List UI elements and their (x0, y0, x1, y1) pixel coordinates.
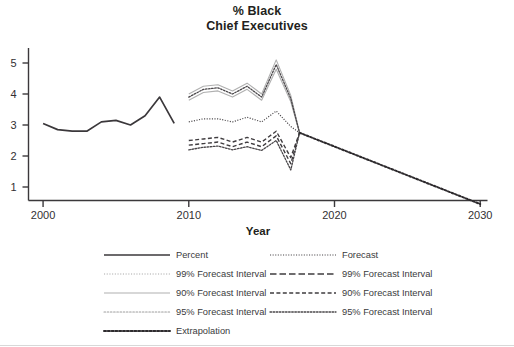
y-tick-label: 2 (10, 150, 16, 162)
series-line (189, 111, 300, 133)
series-line (189, 65, 300, 133)
series-line (43, 97, 174, 131)
tick-label-layer: 123452000201020202030Year (10, 57, 492, 237)
y-tick-label: 4 (10, 88, 16, 100)
chart-title-line-1: % Black (233, 4, 282, 18)
legend-label: Forecast (342, 250, 379, 260)
legend-label: 90% Forecast Interval (342, 288, 432, 298)
y-tick-label: 1 (10, 181, 16, 193)
legend-label: Percent (176, 250, 208, 260)
chart-title-line-2: Chief Executives (0, 19, 514, 34)
legend-label: Extrapolation (176, 326, 230, 336)
x-tick-label: 2010 (177, 209, 201, 221)
chart-figure: % Black Chief Executives 123452000201020… (0, 0, 514, 347)
x-axis-title: Year (246, 225, 271, 237)
legend-label: 90% Forecast Interval (176, 288, 266, 298)
series-line (189, 60, 300, 133)
chart-title: % Black Chief Executives (0, 4, 514, 34)
footer-rule (0, 345, 514, 346)
x-tick-label: 2020 (322, 209, 346, 221)
x-tick-label: 2030 (468, 209, 492, 221)
series-line (189, 133, 300, 164)
x-tick-label: 2000 (31, 209, 55, 221)
y-tick-label: 5 (10, 57, 16, 69)
y-tick-label: 3 (10, 119, 16, 131)
legend-label: 95% Forecast Interval (342, 307, 432, 317)
chart-legend: Percent99% Forecast Interval90% Forecast… (104, 250, 432, 336)
series-line (189, 69, 300, 133)
legend-label: 95% Forecast Interval (176, 307, 266, 317)
legend-label: 99% Forecast Interval (176, 269, 266, 279)
data-series-layer (43, 60, 480, 204)
legend-label: 99% Forecast Interval (342, 269, 432, 279)
line-chart-plot: 123452000201020202030Year Percent99% For… (0, 0, 514, 347)
series-line (300, 133, 481, 204)
